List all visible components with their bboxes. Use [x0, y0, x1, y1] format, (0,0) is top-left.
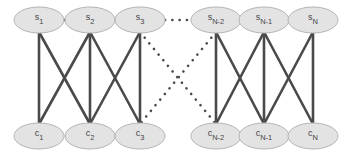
node-label-subscript: 1 — [39, 133, 43, 142]
node-s3: s3 — [115, 7, 165, 33]
node-cN-2: cN-2 — [191, 123, 241, 149]
node-sN-2: sN-2 — [191, 7, 241, 33]
node-label-subscript: 3 — [140, 17, 144, 26]
node-c1: c1 — [14, 123, 64, 149]
node-label-subscript: N-1 — [260, 133, 272, 142]
node-c3: c3 — [115, 123, 165, 149]
server-client-diagram: s1s2s3sN-2sN-1sNc1c2c3cN-2cN-1cN — [0, 0, 351, 154]
node-label-subscript: 2 — [90, 133, 94, 142]
node-cN-1: cN-1 — [239, 123, 289, 149]
edges — [39, 20, 313, 124]
node-s1: s1 — [14, 7, 64, 33]
node-label-subscript: N-2 — [212, 17, 224, 26]
node-label-subscript: N-1 — [260, 17, 272, 26]
node-s2: s2 — [65, 7, 115, 33]
node-label-subscript: N — [313, 17, 318, 26]
node-label-subscript: 2 — [90, 17, 94, 26]
node-sN-1: sN-1 — [239, 7, 289, 33]
node-c2: c2 — [65, 123, 115, 149]
node-label-subscript: N-2 — [212, 133, 224, 142]
node-label-subscript: 1 — [39, 17, 43, 26]
node-cN: cN — [288, 123, 338, 149]
node-sN: sN — [288, 7, 338, 33]
node-label-subscript: N — [313, 133, 318, 142]
node-label-subscript: 3 — [140, 133, 144, 142]
